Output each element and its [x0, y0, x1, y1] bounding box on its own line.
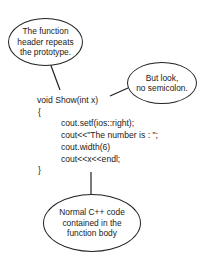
code-line: cout<<"The number is : ";: [61, 130, 158, 142]
callout-semicolon: But look, no semicolon.: [127, 62, 197, 104]
callout-body-line: contained in the: [59, 218, 125, 228]
code-signature: void Show(int x): [37, 95, 98, 107]
callout-body-line: function body: [59, 228, 125, 238]
code-line: cout.width(6): [61, 142, 110, 154]
callout-body-line: Normal C++ code: [59, 207, 125, 217]
callout-semicolon-line: no semicolon.: [136, 83, 188, 93]
callout-header-line: The function: [17, 26, 73, 36]
code-line: cout<<x<<endl;: [61, 154, 120, 166]
callout-body: Normal C++ code contained in the functio…: [43, 194, 141, 252]
code-close-brace: }: [38, 165, 41, 177]
connector-header: [50, 63, 60, 90]
connector-semicolon: [110, 88, 128, 96]
callout-header-line: the prototype.: [17, 47, 73, 57]
code-open-brace: {: [38, 107, 41, 119]
callout-header: The function header repeats the prototyp…: [8, 18, 83, 66]
callout-semicolon-line: But look,: [136, 73, 188, 83]
code-line: cout.setf(ios::right);: [61, 118, 134, 130]
callout-header-line: header repeats: [17, 37, 73, 47]
